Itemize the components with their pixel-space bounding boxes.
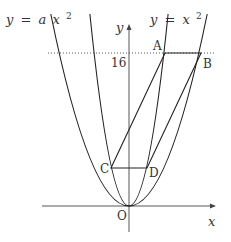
parallelogram-ABDC xyxy=(111,53,201,168)
y-tick-16-label: 16 xyxy=(111,56,126,70)
x-axis-label: x xyxy=(208,214,216,229)
point-D-label: D xyxy=(149,166,159,180)
y-axis xyxy=(127,24,132,232)
y-axis-arrow-icon xyxy=(127,24,132,30)
figure: y = a x 2 y = x 2 y x O 16 A B C D xyxy=(0,0,231,242)
origin-label: O xyxy=(117,209,127,223)
point-A-label: A xyxy=(152,39,162,53)
point-B-label: B xyxy=(203,57,212,71)
x-axis-arrow-icon xyxy=(210,204,216,209)
point-C-label: C xyxy=(100,162,109,176)
narrow-parabola-label: y = x 2 xyxy=(149,11,202,27)
diagram-canvas: y = a x 2 y = x 2 y x O 16 A B C D xyxy=(0,0,231,242)
y-axis-label: y xyxy=(115,20,124,35)
wide-parabola-label: y = a x 2 xyxy=(5,11,72,27)
